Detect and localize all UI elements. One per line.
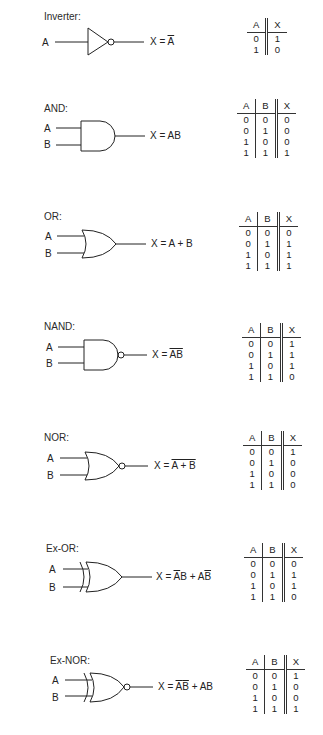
cell: 0	[282, 468, 302, 479]
header-x: X	[278, 212, 298, 227]
cell: 0	[282, 479, 302, 490]
cell: 0	[239, 238, 258, 249]
cell: 1	[278, 238, 298, 249]
cell: 1	[281, 338, 301, 350]
cell: 1	[261, 349, 281, 360]
cell: 1	[246, 692, 265, 703]
cell: 1	[262, 479, 282, 490]
xor-section: Ex-OR: A B X = AB + AB ABX 000 011 101 1…	[0, 520, 323, 625]
cell: 1	[247, 44, 267, 55]
cell: 1	[283, 569, 303, 580]
cell: 1	[285, 703, 305, 714]
input-b-label: B	[45, 248, 52, 259]
cell: 1	[246, 703, 265, 714]
cell: 0	[243, 457, 262, 468]
cell: 1	[256, 147, 276, 158]
cell: 1	[263, 591, 283, 602]
expression-prefix: X =	[151, 238, 169, 249]
input-a-label: A	[45, 231, 52, 242]
xor-expression: X = AB + AB	[156, 571, 211, 582]
header-x: X	[282, 431, 302, 446]
inverter-section: Inverter: A X = A AX 01 10	[0, 0, 323, 95]
cell: 1	[281, 349, 301, 360]
expression-term: A	[168, 36, 175, 47]
cell: 1	[267, 33, 287, 45]
cell: 1	[278, 249, 298, 260]
or-expression: X = A + B	[151, 238, 193, 249]
cell: 0	[276, 136, 296, 147]
and-expression: X = AB	[150, 130, 181, 141]
nand-truth-table: ABX 001 011 101 110	[242, 323, 301, 382]
cell: 0	[239, 227, 258, 239]
expression-term: A + B	[172, 460, 196, 471]
and-truth-table: ABX 000 010 100 111	[237, 99, 296, 158]
header-b: B	[256, 99, 276, 114]
cell: 0	[246, 670, 265, 682]
cell: 0	[244, 558, 263, 570]
nand-expression: X = AB	[152, 349, 183, 360]
cell: 0	[281, 371, 301, 382]
cell: 1	[244, 591, 263, 602]
input-a-label: A	[47, 453, 54, 464]
cell: 0	[265, 692, 285, 703]
cell: 0	[242, 338, 261, 350]
expression-prefix: X =	[150, 36, 168, 47]
cell: 0	[283, 558, 303, 570]
cell: 0	[261, 338, 281, 350]
expression-term: B	[182, 681, 189, 692]
header-x: X	[267, 18, 287, 33]
and-section: AND: A B X = AB ABX 000 010 100 111	[0, 95, 323, 200]
cell: 0	[258, 249, 278, 260]
header-x: X	[276, 99, 296, 114]
cell: 0	[283, 591, 303, 602]
cell: 1	[242, 371, 261, 382]
header-a: A	[239, 212, 258, 227]
expression-term: A + B	[169, 238, 193, 249]
cell: 1	[281, 360, 301, 371]
cell: 0	[276, 125, 296, 136]
cell: 0	[276, 114, 296, 126]
header-a: A	[247, 18, 267, 33]
cell: 0	[267, 44, 287, 55]
input-b-label: B	[46, 358, 53, 369]
cell: 1	[237, 147, 256, 158]
header-a: A	[243, 431, 262, 446]
expression-prefix: X =	[154, 460, 172, 471]
cell: 1	[283, 580, 303, 591]
cell: 1	[243, 479, 262, 490]
expression-term: AB	[170, 349, 183, 360]
cell: 0	[265, 670, 285, 682]
input-b-label: B	[49, 582, 56, 593]
expression-term: B	[204, 571, 211, 582]
header-a: A	[244, 543, 263, 558]
cell: 0	[244, 569, 263, 580]
cell: 0	[237, 125, 256, 136]
cell: 1	[244, 580, 263, 591]
input-a-label: A	[42, 37, 49, 48]
expression-term: AB	[168, 130, 181, 141]
header-b: B	[262, 431, 282, 446]
xor-truth-table: ABX 000 011 101 110	[244, 543, 303, 602]
cell: 0	[237, 114, 256, 126]
cell: 1	[258, 260, 278, 271]
cell: 0	[285, 681, 305, 692]
cell: 1	[265, 703, 285, 714]
cell: 1	[256, 125, 276, 136]
header-a: A	[246, 655, 265, 670]
cell: 0	[246, 681, 265, 692]
expression-term: B + A	[180, 571, 204, 582]
cell: 1	[262, 457, 282, 468]
input-a-label: A	[46, 342, 53, 353]
cell: 1	[278, 260, 298, 271]
inverter-truth-table: AX 01 10	[247, 18, 287, 55]
cell: 0	[247, 33, 267, 45]
cell: 1	[237, 136, 256, 147]
cell: 0	[256, 114, 276, 126]
nor-expression: X = A + B	[154, 460, 196, 471]
input-b-label: B	[47, 470, 54, 481]
cell: 0	[242, 349, 261, 360]
xnor-truth-table: ABX 001 010 100 111	[246, 655, 305, 714]
nand-section: NAND: A B X = AB ABX 001 011 101 110	[0, 305, 323, 410]
input-b-label: B	[52, 692, 59, 703]
cell: 1	[243, 468, 262, 479]
